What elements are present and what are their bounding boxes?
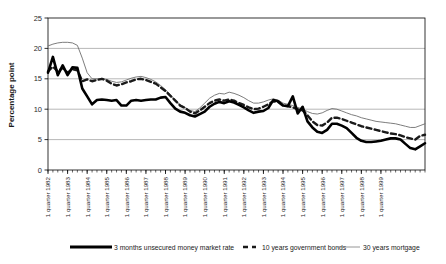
x-tick-label: 1 quarter 1985 — [103, 176, 110, 217]
x-tick-label: 1 quarter 1982 — [44, 176, 51, 217]
x-tick-label: 1 quarter 1986 — [123, 176, 130, 217]
chart-background — [0, 0, 446, 264]
x-tick-label: 1 quarter 1988 — [162, 176, 169, 217]
y-tick-15: 15 — [34, 74, 42, 83]
x-tick-label: 1 quarter 1998 — [358, 176, 365, 217]
legend-label-mortgage: 30 years mortgage — [363, 244, 420, 252]
x-tick-label: 1 quarter 1983 — [64, 176, 71, 217]
y-tick-20: 20 — [34, 44, 42, 53]
legend-label-government-bonds: 10 years government bonds — [262, 244, 347, 252]
y-tick-25: 25 — [34, 14, 42, 23]
x-tick-label: 1 quarter 1990 — [201, 176, 208, 217]
x-tick-label: 1 quarter 1995 — [299, 176, 306, 217]
y-axis-title: Percentage point — [7, 62, 16, 127]
x-tick-label: 1 quarter 1999 — [377, 176, 384, 217]
x-tick-label: 1 quarter 1984 — [84, 176, 91, 217]
x-tick-label: 1 quarter 1991 — [221, 176, 228, 217]
line-chart-svg: Percentage point 0510152025 1 quarter 19… — [0, 0, 446, 264]
chart-container: Percentage point 0510152025 1 quarter 19… — [0, 0, 446, 264]
x-tick-label: 1 quarter 1997 — [338, 176, 345, 217]
y-tick-5: 5 — [38, 135, 42, 144]
x-tick-label: 1 quarter 1989 — [181, 176, 188, 217]
x-tick-label: 1 quarter 1987 — [142, 176, 149, 217]
x-tick-label: 1 quarter 1996 — [319, 176, 326, 217]
x-tick-label: 1 quarter 1994 — [279, 176, 286, 217]
y-tick-0: 0 — [38, 166, 42, 175]
y-tick-10: 10 — [34, 105, 42, 114]
x-tick-label: 1 quarter 1992 — [240, 176, 247, 217]
x-tick-label: 1 quarter 1993 — [260, 176, 267, 217]
legend-label-money-market: 3 months unsecured money market rate — [114, 244, 234, 252]
